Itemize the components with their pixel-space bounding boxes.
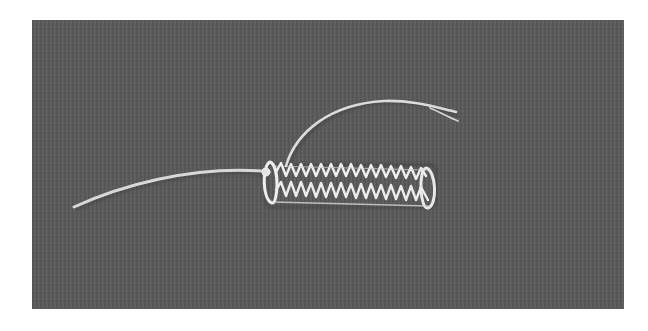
photo-canvas: [32, 20, 624, 309]
wire-knot: [262, 168, 270, 176]
photo: Grayscale photograph of a zigzag wire st…: [32, 20, 624, 309]
